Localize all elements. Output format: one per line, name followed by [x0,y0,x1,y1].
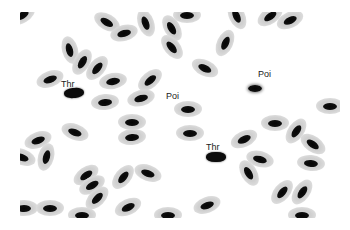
nucleus [268,120,282,127]
cell-label: Poi [258,70,271,79]
nucleus [248,85,262,92]
nucleus [180,12,194,19]
nucleus [183,130,197,137]
cell-label: Thr [61,80,75,89]
nucleus [206,152,226,162]
cell-label: Thr [206,143,220,152]
nucleus [75,212,89,219]
nucleus [295,212,309,219]
nucleus [125,119,139,126]
nucleus [181,106,195,113]
nucleus [20,205,31,212]
nucleus [323,103,337,110]
nucleus [161,212,175,219]
nucleus [43,205,57,212]
cell-label: Poi [166,92,179,101]
blood-smear-micrograph: ThrPoiPoiThr [20,12,340,218]
